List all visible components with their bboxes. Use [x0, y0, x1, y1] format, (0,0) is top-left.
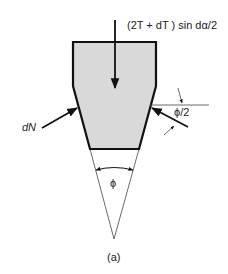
- left-normal-force-arrow: [42, 108, 77, 128]
- groove-cone-lines: [90, 149, 139, 239]
- figure-caption: (a): [107, 251, 120, 263]
- half-angle-arrow-top: [178, 88, 182, 103]
- groove-angle-label: ϕ: [110, 177, 116, 189]
- normal-force-label: dN: [22, 121, 36, 133]
- belt-groove-diagram: (2T + dT ) sin dα/2 dN ϕ/2 ϕ (a): [0, 0, 228, 274]
- half-angle-arrow-bottom: [164, 126, 174, 135]
- groove-angle-arc: [96, 168, 133, 171]
- half-angle-label: ϕ/2: [174, 106, 189, 118]
- top-force-label: (2T + dT ) sin dα/2: [127, 19, 217, 31]
